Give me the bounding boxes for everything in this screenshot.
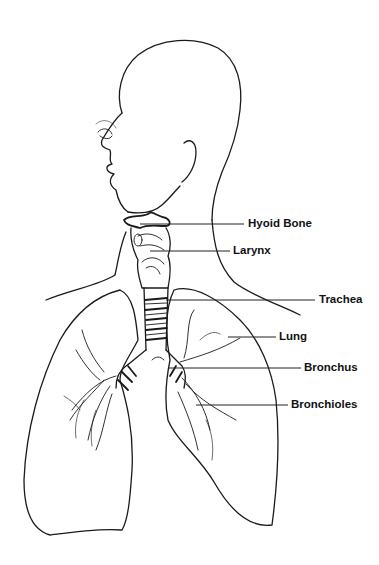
right-lung bbox=[166, 289, 278, 526]
label-larynx: Larynx bbox=[233, 245, 271, 257]
head-outline bbox=[46, 40, 300, 315]
leader-lines bbox=[140, 224, 315, 405]
label-lung: Lung bbox=[279, 331, 307, 343]
bronchi-drawing bbox=[116, 350, 185, 390]
label-hyoid-bone: Hyoid Bone bbox=[248, 218, 312, 230]
label-bronchus: Bronchus bbox=[304, 362, 358, 374]
respiratory-diagram bbox=[0, 0, 379, 565]
left-lung bbox=[24, 290, 138, 535]
label-bronchioles: Bronchioles bbox=[291, 399, 357, 411]
trachea-drawing bbox=[144, 288, 168, 350]
label-trachea: Trachea bbox=[319, 294, 362, 306]
